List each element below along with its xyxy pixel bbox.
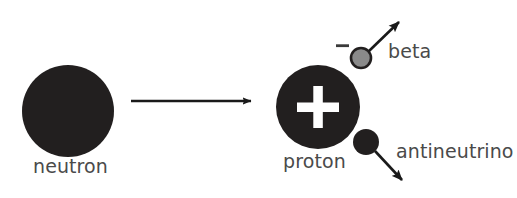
antineutrino-label: antineutrino [396, 142, 514, 161]
beta-particle [351, 48, 371, 68]
neutron-label: neutron [33, 157, 108, 176]
neutron-particle [22, 65, 114, 157]
beta-label: beta [388, 42, 431, 61]
proton-label: proton [283, 152, 346, 171]
beta-decay-diagram: neutron proton beta antineutrino [0, 0, 517, 198]
minus-charge-icon [336, 44, 349, 47]
